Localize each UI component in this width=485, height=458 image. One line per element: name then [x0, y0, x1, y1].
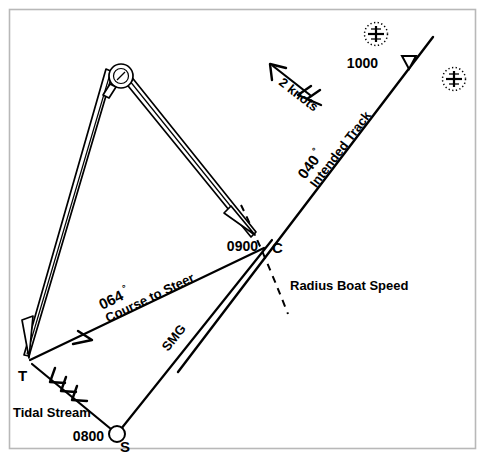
intended-track-bearing-degree-symbol: ° [310, 145, 320, 154]
rock-symbol-upper [365, 23, 388, 46]
radius-boat-speed-label: Radius Boat Speed [290, 278, 409, 293]
divider-left-leg-score [27, 74, 110, 354]
diagram-frame [10, 10, 476, 449]
course-to-steer-bearing-degree-symbol: ° [121, 283, 129, 294]
start-time-0800-label: 0800 [73, 428, 104, 444]
point-c-label: C [272, 239, 283, 256]
intended-track-line [178, 37, 433, 372]
course-to-steer-label-group: 064 ° Course to Steer [96, 255, 197, 326]
intended-track-label-group: 040 ° Intended Track [293, 97, 375, 190]
track-time-1000-label: 1000 [347, 55, 378, 71]
course-time-0900-label: 0900 [227, 238, 258, 254]
diagram-canvas: 1000 2 knots 040 ° Intended Track 0900 C… [0, 0, 485, 458]
point-t-label: T [18, 367, 27, 384]
smg-line [117, 240, 272, 434]
navigation-diagram: 1000 2 knots 040 ° Intended Track 0900 C… [0, 0, 485, 458]
rock-symbol-lower [443, 68, 466, 91]
tidal-stream-label: Tidal Stream [13, 405, 91, 420]
point-s-label: S [120, 438, 130, 455]
divider-left-tip [22, 316, 33, 358]
intended-track-name: Intended Track [307, 108, 375, 191]
